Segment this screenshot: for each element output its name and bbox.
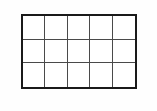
- grid-figure: [21, 14, 137, 89]
- grid-cell[interactable]: [90, 40, 112, 64]
- grid-cell[interactable]: [45, 40, 67, 64]
- grid-cell[interactable]: [23, 40, 45, 64]
- grid-cell[interactable]: [45, 16, 67, 40]
- page-canvas: [0, 0, 157, 111]
- grid-cell[interactable]: [90, 16, 112, 40]
- grid-cell[interactable]: [90, 63, 112, 87]
- grid-cell[interactable]: [23, 16, 45, 40]
- grid-cell[interactable]: [113, 40, 135, 64]
- grid-cell[interactable]: [68, 16, 90, 40]
- grid-cell[interactable]: [68, 40, 90, 64]
- grid-cell[interactable]: [113, 63, 135, 87]
- grid-cell[interactable]: [23, 63, 45, 87]
- grid-cell[interactable]: [45, 63, 67, 87]
- grid-cell[interactable]: [68, 63, 90, 87]
- grid-cell[interactable]: [113, 16, 135, 40]
